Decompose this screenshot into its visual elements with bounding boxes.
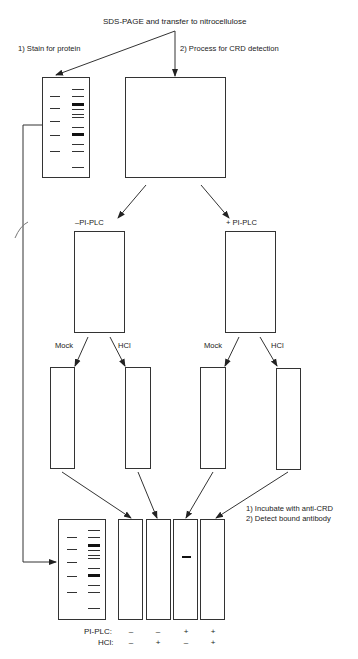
sample-band [72, 144, 84, 145]
detection-lane-4 [200, 519, 225, 620]
condition-label-pi-plc: PI-PLC: [84, 627, 112, 636]
sample-band [88, 592, 100, 593]
nitrocellulose-membrane [125, 77, 226, 178]
detection-lane-2 [146, 519, 171, 620]
sample-band [72, 96, 84, 97]
marker-band [67, 592, 77, 593]
strip-mock-plus [200, 367, 226, 469]
label-mock-right: Mock [204, 341, 222, 350]
membrane-minus-pi-plc [74, 231, 125, 333]
marker-band [50, 135, 60, 136]
sample-band [72, 133, 84, 136]
sample-band [88, 608, 100, 609]
marker-band [50, 96, 60, 97]
marker-band [50, 108, 60, 109]
sample-band [88, 585, 100, 586]
hcl-sign-1: – [126, 638, 136, 647]
pi-plc-sign-3: + [181, 627, 191, 636]
detection-lane-1 [118, 519, 143, 620]
pi-plc-sign-4: + [208, 627, 218, 636]
sample-band [72, 114, 84, 115]
detection-lane-3 [173, 519, 198, 620]
sample-band [88, 530, 100, 531]
sample-band [72, 151, 84, 152]
sample-band [72, 89, 84, 90]
sample-band [88, 555, 100, 556]
membrane-plus-pi-plc [225, 231, 276, 333]
final-step-2: 2) Detect bound antibody [246, 514, 331, 523]
marker-band [50, 151, 60, 152]
sample-band [72, 117, 84, 118]
strip-hcl-minus [125, 367, 151, 469]
strip-hcl-plus [276, 368, 301, 470]
marker-band [50, 121, 60, 122]
sample-band [88, 537, 100, 538]
sample-band [88, 544, 100, 547]
condition-label-hcl: HCl: [98, 638, 114, 647]
pi-plc-sign-2: – [153, 627, 163, 636]
label-hcl-left: HCl [118, 341, 131, 350]
final-step-1: 1) Incubate with anti-CRD [246, 504, 333, 513]
stained-blot-top [42, 77, 90, 178]
label-minus-pi-plc: –PI-PLC [75, 218, 104, 227]
hcl-sign-4: + [208, 638, 218, 647]
branch-label-process: 2) Process for CRD detection [180, 44, 279, 53]
label-plus-pi-plc: + PI-PLC [226, 218, 257, 227]
sample-band [72, 127, 84, 128]
hcl-sign-3: – [181, 638, 191, 647]
sample-band [72, 167, 84, 168]
sample-band [72, 103, 84, 106]
sample-band [88, 558, 100, 559]
pi-plc-sign-1: – [126, 627, 136, 636]
label-mock-left: Mock [55, 341, 73, 350]
label-hcl-right: HCl [271, 341, 284, 350]
sample-band [88, 574, 100, 577]
sample-band [88, 568, 100, 569]
marker-band [67, 576, 77, 577]
branch-label-stain: 1) Stain for protein [18, 44, 80, 53]
diagram-title: SDS-PAGE and transfer to nitrocellulose [103, 17, 246, 26]
crd-band [182, 556, 191, 558]
sample-band [72, 109, 84, 110]
marker-band [67, 537, 77, 538]
sample-band [88, 550, 100, 551]
stained-blot-bottom [58, 519, 106, 620]
marker-band [67, 549, 77, 550]
hcl-sign-2: + [153, 638, 163, 647]
marker-band [67, 562, 77, 563]
strip-mock-minus [50, 367, 75, 469]
